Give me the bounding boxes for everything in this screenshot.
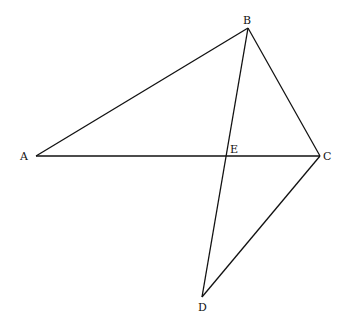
segment-bd	[202, 28, 248, 297]
label-c: C	[323, 150, 331, 163]
label-b: B	[243, 14, 251, 27]
diagram-canvas: A B C E D	[0, 0, 351, 329]
label-d: D	[198, 301, 207, 314]
geometry-figure: A B C E D	[0, 0, 351, 329]
label-e: E	[230, 143, 238, 156]
segment-bc	[248, 28, 320, 156]
label-a: A	[19, 150, 29, 163]
segment-cd	[202, 156, 320, 297]
segment-ab	[36, 28, 248, 156]
